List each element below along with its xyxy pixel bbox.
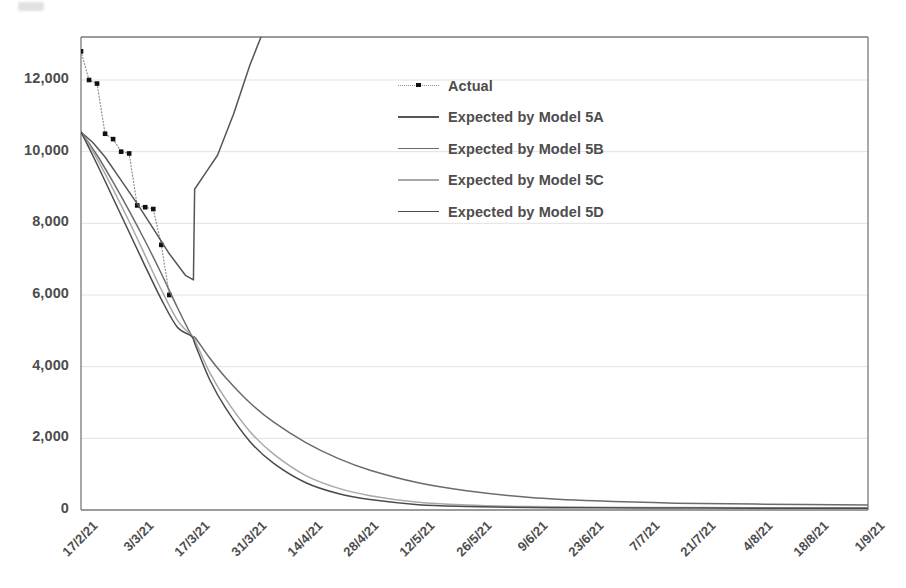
legend-swatch-icon xyxy=(396,142,441,156)
legend-item-label: Expected by Model 5D xyxy=(448,204,604,220)
legend-swatch-icon xyxy=(396,110,441,124)
legend-marker-icon xyxy=(416,83,421,88)
legend-item-label: Expected by Model 5C xyxy=(448,172,604,188)
series-expected-by-model-5a xyxy=(81,35,262,280)
data-point-marker xyxy=(79,49,84,54)
y-tick-label: 8,000 xyxy=(5,213,69,229)
data-point-marker xyxy=(87,78,92,83)
y-tick-label: 6,000 xyxy=(5,285,69,301)
y-tick-label: 0 xyxy=(5,500,69,516)
series-line xyxy=(81,35,262,280)
legend-item-expected-by-model-5a[interactable]: Expected by Model 5A xyxy=(396,102,604,134)
legend-item-label: Expected by Model 5A xyxy=(448,109,604,125)
y-tick-label: 10,000 xyxy=(5,142,69,158)
legend-solid-line xyxy=(398,179,439,181)
series-line xyxy=(81,51,169,295)
data-point-marker xyxy=(95,81,100,86)
y-tick-label: 2,000 xyxy=(5,428,69,444)
data-point-marker xyxy=(143,205,148,210)
legend-item-label: Expected by Model 5B xyxy=(448,141,604,157)
data-point-marker xyxy=(111,137,116,142)
legend-solid-line xyxy=(398,116,439,118)
series-actual xyxy=(79,49,172,297)
legend-swatch-icon xyxy=(396,79,441,93)
legend-item-actual[interactable]: Actual xyxy=(396,70,604,102)
data-point-marker xyxy=(103,131,108,136)
data-point-marker xyxy=(127,151,132,156)
legend-item-expected-by-model-5d[interactable]: Expected by Model 5D xyxy=(396,196,604,228)
legend-swatch-icon xyxy=(396,173,441,187)
legend-solid-line xyxy=(398,148,439,150)
legend-swatch-icon xyxy=(396,205,441,219)
legend-item-expected-by-model-5b[interactable]: Expected by Model 5B xyxy=(396,133,604,165)
legend-item-label: Actual xyxy=(448,78,493,94)
legend-solid-line xyxy=(398,211,439,213)
data-point-marker xyxy=(151,207,156,212)
chart-container: 02,0004,0006,0008,00010,00012,000 17/2/2… xyxy=(0,0,906,588)
y-tick-label: 4,000 xyxy=(5,357,69,373)
y-tick-label: 12,000 xyxy=(5,70,69,86)
chart-legend: ActualExpected by Model 5AExpected by Mo… xyxy=(396,70,604,228)
legend-item-expected-by-model-5c[interactable]: Expected by Model 5C xyxy=(396,165,604,197)
data-point-marker xyxy=(119,149,124,154)
